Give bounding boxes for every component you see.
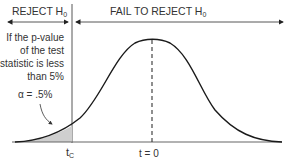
- tick-critical-value: tC: [66, 146, 74, 159]
- condition-note: If the p-value of the test statistic is …: [0, 31, 64, 83]
- hypothesis-test-chart: [0, 0, 289, 168]
- fail-to-reject-label: FAIL TO REJECT H0: [110, 5, 206, 18]
- tick-zero: t = 0: [139, 148, 159, 159]
- reject-label: REJECT H0: [12, 5, 67, 18]
- alpha-label: α = .5%: [18, 89, 52, 100]
- alpha-pointer-arrow: [40, 104, 52, 124]
